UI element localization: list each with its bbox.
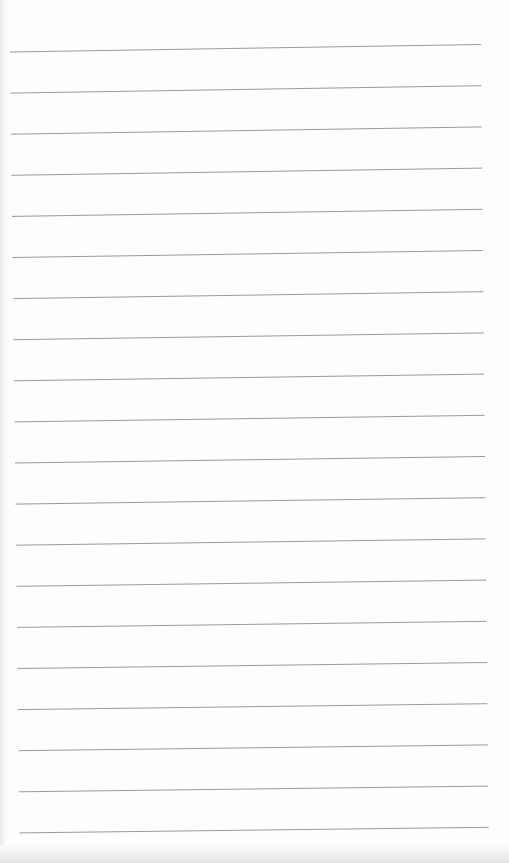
ruled-line (18, 663, 488, 669)
ruled-line (19, 745, 488, 751)
ruled-line (20, 827, 489, 833)
ruled-line (17, 621, 487, 627)
ruled-line (14, 333, 484, 340)
ruled-line (12, 209, 483, 216)
ruled-line (13, 251, 484, 258)
ruled-line (13, 292, 483, 299)
ruled-line (15, 415, 485, 422)
ruled-line (18, 704, 487, 710)
ruled-line (16, 498, 486, 504)
ruled-line (16, 539, 486, 545)
ruled-line (11, 86, 482, 93)
lined-paper (0, 0, 509, 863)
ruled-line (19, 786, 488, 792)
ruled-line (15, 457, 485, 464)
bottom-scan-shadow (0, 845, 509, 863)
ruled-line (12, 168, 483, 175)
ruled-line (14, 374, 484, 381)
ruled-line (17, 580, 487, 586)
ruled-line (11, 127, 482, 134)
ruled-line (10, 45, 481, 53)
